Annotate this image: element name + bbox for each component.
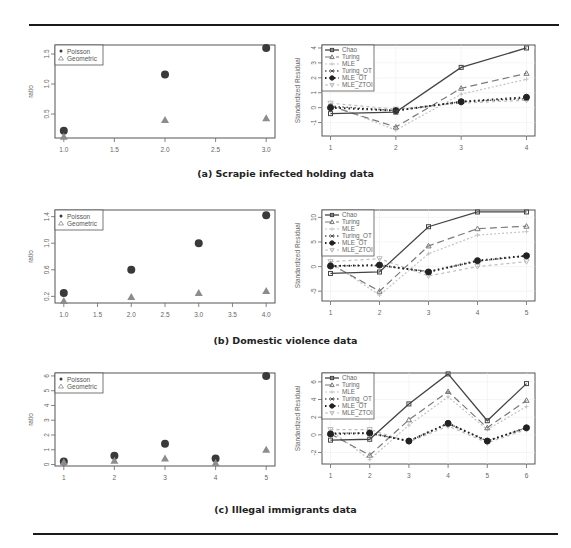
- x-tick-label: 4: [446, 472, 450, 479]
- ratio-plot-c: 12345x0123456ratioPoissonGeometric: [0, 358, 285, 488]
- circle-marker: [523, 253, 529, 259]
- poisson-point: [195, 239, 203, 247]
- circle-marker: [406, 438, 412, 444]
- circle-marker: [330, 241, 334, 245]
- y-tick-label: -2: [310, 449, 317, 455]
- x-axis: 12345: [329, 301, 529, 316]
- x-tick-label: 3: [407, 472, 411, 479]
- circle-marker: [330, 76, 334, 80]
- x-tick-label: 3.5: [228, 311, 237, 318]
- y-tick-label: 5: [310, 240, 317, 244]
- y-tick-label: 1: [43, 448, 50, 452]
- legend: PoissonGeometric: [55, 45, 103, 65]
- legend-geometric-label: Geometric: [67, 383, 98, 390]
- x-tick-label: 3: [163, 474, 167, 481]
- legend-label: MLE_ZTOI: [342, 409, 373, 417]
- y-tick-label: 1.5: [43, 49, 50, 58]
- poisson-point: [161, 70, 169, 78]
- x-tick-label: 2.5: [211, 146, 220, 153]
- x-tick-label: 4: [525, 144, 529, 151]
- legend-label: MLE: [342, 388, 355, 395]
- circle-marker: [474, 258, 480, 264]
- legend-poisson-label: Poisson: [67, 376, 91, 383]
- poisson-point: [60, 289, 68, 297]
- ratio-plot-b: 1.01.52.02.53.03.54.0x0.20.61.01.4ratioP…: [0, 195, 285, 325]
- residual-plot-a: 1234x-101234Standardized ResidualChaoTur…: [285, 30, 571, 160]
- x-tick-label: 3.0: [262, 146, 271, 153]
- x-tick-label: 5: [525, 309, 529, 316]
- x-tick-label: 3: [459, 144, 463, 151]
- poisson-point: [161, 440, 169, 448]
- x-tick-label: 2: [113, 474, 117, 481]
- x-tick-label: 1.0: [59, 311, 68, 318]
- circle-marker: [458, 99, 464, 105]
- y-tick-label: 5: [43, 389, 50, 393]
- y-tick-label: 0: [310, 433, 317, 437]
- x-axis: 12345: [62, 466, 268, 481]
- bottom-rule: [33, 533, 558, 535]
- x-axis: 1.01.52.02.53.03.54.0: [59, 303, 271, 318]
- legend-poisson-label: Poisson: [67, 213, 91, 220]
- legend-poisson-icon: [60, 50, 63, 53]
- legend-label: MLE_ZTOI: [342, 246, 373, 254]
- poisson-point: [262, 211, 270, 219]
- y-tick-label: 2: [43, 433, 50, 437]
- caption-c: (c) Illegal immigrants data: [0, 504, 571, 515]
- legend: PoissonGeometric: [55, 373, 103, 393]
- y-tick-label: 2: [310, 415, 317, 419]
- poisson-point: [262, 44, 270, 52]
- y-tick-label: 1.0: [43, 79, 50, 88]
- y-axis: -101234: [310, 46, 322, 126]
- ratio-plot-a: 1.01.52.02.53.0x0.51.01.5ratioPoissonGeo…: [0, 30, 285, 160]
- y-tick-label: 6: [43, 374, 50, 378]
- y-axis: -20246: [310, 380, 322, 456]
- x-tick-label: 6: [525, 472, 529, 479]
- y-axis-label: Standardized Residual: [294, 385, 301, 451]
- poisson-point: [262, 372, 270, 380]
- x-tick-label: 5: [485, 472, 489, 479]
- legend-poisson-label: Poisson: [67, 48, 91, 55]
- legend: ChaoTuringMLETuring_OTMLE_OTMLE_ZTOI: [322, 373, 374, 419]
- circle-marker: [445, 420, 451, 426]
- legend: ChaoTuringMLETuring_OTMLE_OTMLE_ZTOI: [322, 210, 374, 256]
- legend-geometric-label: Geometric: [67, 220, 98, 227]
- x-tick-label: 3.0: [194, 311, 203, 318]
- x-tick-label: 1: [329, 144, 333, 151]
- x-tick-label: 1.5: [93, 311, 102, 318]
- y-tick-label: 4: [43, 403, 50, 407]
- y-tick-label: -1: [310, 119, 317, 125]
- legend-label: MLE: [342, 225, 355, 232]
- x-tick-label: 2: [368, 472, 372, 479]
- x-tick-label: 2.0: [160, 146, 169, 153]
- legend: ChaoTuringMLETuring_OTMLE_OTMLE_ZTOI: [322, 45, 374, 91]
- y-axis: 0.20.61.01.4: [43, 212, 55, 301]
- y-tick-label: 1: [310, 91, 317, 95]
- legend-label: MLE_ZTOI: [342, 81, 373, 89]
- x-tick-label: 1.5: [110, 146, 119, 153]
- y-tick-label: 4: [310, 46, 317, 50]
- x-tick-label: 3: [427, 309, 431, 316]
- legend-label: Chao: [342, 46, 358, 53]
- circle-marker: [328, 263, 334, 269]
- y-tick-label: 0.6: [43, 265, 50, 274]
- x-tick-label: 1: [62, 474, 66, 481]
- y-tick-label: 1.4: [43, 212, 50, 221]
- y-tick-label: 0.5: [43, 109, 50, 118]
- y-tick-label: -5: [310, 288, 317, 294]
- circle-marker: [367, 430, 373, 436]
- y-axis-label: ratio: [27, 250, 34, 263]
- y-tick-label: 0: [43, 462, 50, 466]
- x-axis: 1.01.52.02.53.0: [59, 138, 271, 153]
- legend-poisson-icon: [60, 378, 63, 381]
- legend-label: MLE: [342, 60, 355, 67]
- circle-marker: [328, 431, 334, 437]
- circle-marker: [426, 269, 432, 275]
- circle-marker: [330, 404, 334, 408]
- x-axis: 1234: [329, 136, 529, 151]
- y-tick-label: 2: [310, 76, 317, 80]
- x-tick-label: 2: [378, 309, 382, 316]
- x-tick-label: 1.0: [59, 146, 68, 153]
- x-axis: 123456: [329, 464, 529, 479]
- y-tick-label: 0: [310, 105, 317, 109]
- y-axis: 0.51.01.5: [43, 49, 55, 118]
